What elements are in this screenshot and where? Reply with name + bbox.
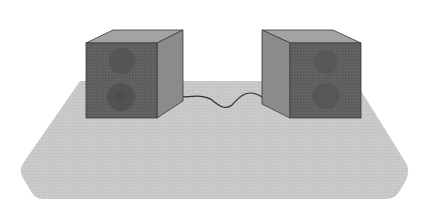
right-speaker-side xyxy=(262,30,290,118)
left-speaker xyxy=(86,30,183,118)
right-speaker-tweeter xyxy=(314,50,338,74)
illustration-canvas xyxy=(0,0,432,212)
left-speaker-tweeter xyxy=(109,48,135,74)
right-speaker xyxy=(262,30,361,118)
speakers-illustration xyxy=(0,0,432,212)
right-speaker-woofer xyxy=(313,83,339,109)
